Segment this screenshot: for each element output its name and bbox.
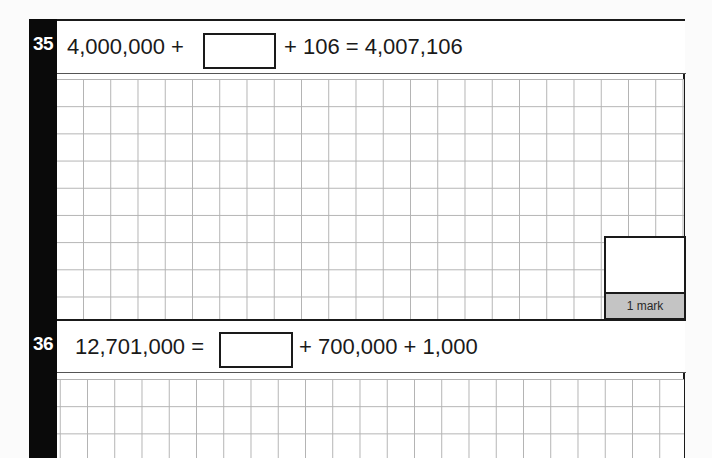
worksheet-page: 35 4,000,000 + + 106 = 4,007,106 1 mark … bbox=[0, 0, 712, 458]
question-35-working-grid[interactable] bbox=[57, 79, 684, 319]
question-36-equation-right: + 700,000 + 1,000 bbox=[299, 334, 478, 360]
question-35-marks-label: 1 mark bbox=[604, 292, 686, 320]
question-35-answer-box[interactable] bbox=[203, 33, 276, 69]
question-35-equation-left: 4,000,000 + bbox=[67, 34, 184, 60]
question-number-36: 36 bbox=[29, 333, 57, 355]
question-36-working-grid[interactable] bbox=[57, 379, 684, 458]
question-36-equation-left: 12,701,000 = bbox=[75, 334, 204, 360]
question-35-equation-right: + 106 = 4,007,106 bbox=[284, 34, 463, 60]
question-35-header-divider bbox=[57, 73, 686, 74]
question-35-mark-box bbox=[604, 236, 686, 293]
question-36-header-divider bbox=[57, 372, 686, 373]
question-36-answer-box[interactable] bbox=[219, 332, 293, 368]
question-number-35: 35 bbox=[29, 33, 57, 55]
question-number-bar bbox=[29, 19, 57, 458]
